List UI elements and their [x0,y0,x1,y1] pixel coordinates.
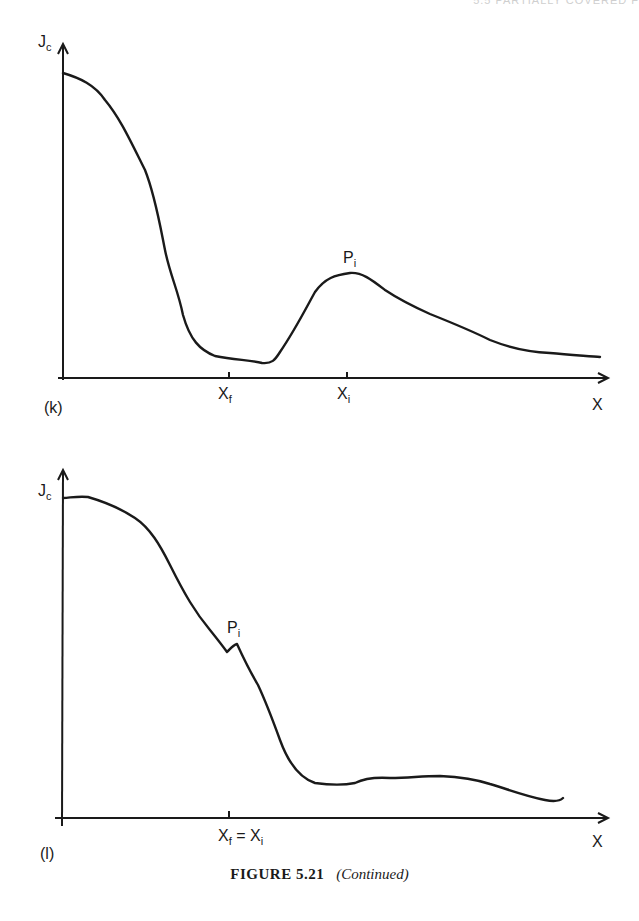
figure-caption: FIGURE 5.21(Continued) [0,866,639,883]
x-axis-label-l: X [592,834,603,850]
tick-label-xf-eq-xi-l: Xf = Xi [218,828,263,847]
y-axis-label-l: Jc [38,483,52,502]
figure-number: FIGURE 5.21 [230,866,324,882]
chart-l-axes [55,470,608,826]
chart-l-curve [63,497,563,801]
chart-l-plot [0,0,639,921]
peak-label-pi-l: Pi [227,620,240,639]
figure-note: (Continued) [336,866,409,882]
panel-label-l: (l) [40,846,54,862]
y-axis-l [62,472,63,826]
